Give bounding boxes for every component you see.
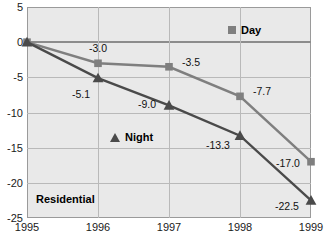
annotation-residential: Residential <box>36 193 95 205</box>
data-point-square <box>236 93 244 101</box>
data-label: -13.3 <box>206 139 230 151</box>
data-label: -9.0 <box>138 98 156 110</box>
legend-entry-night: Night <box>110 131 153 143</box>
data-point-square <box>165 63 173 71</box>
data-label: -7.7 <box>253 85 271 97</box>
data-label: -3.0 <box>89 42 107 54</box>
data-label: -5.1 <box>72 88 90 100</box>
legend-label-night: Night <box>125 131 153 143</box>
data-point-square <box>94 59 102 67</box>
data-point-triangle <box>93 73 104 83</box>
legend-entry-day: Day <box>228 24 261 36</box>
square-marker-icon <box>228 26 236 34</box>
data-point-square <box>307 158 315 166</box>
line-chart: 50-5-10-15-20-25 19951996199719981999 -3… <box>0 0 327 248</box>
triangle-marker-icon <box>110 133 120 142</box>
legend-label-day: Day <box>241 24 261 36</box>
data-label: -17.0 <box>276 157 300 169</box>
data-label: -3.5 <box>182 56 200 68</box>
data-label: -22.5 <box>275 200 299 212</box>
